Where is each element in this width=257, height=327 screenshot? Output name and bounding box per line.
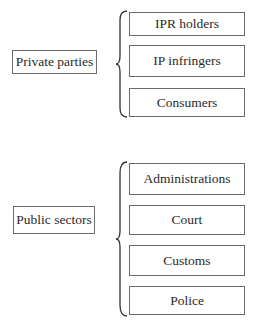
member-ipr-holders: IPR holders bbox=[129, 12, 245, 36]
group-label-private-parties: Private parties bbox=[12, 50, 97, 74]
member-consumers: Consumers bbox=[129, 88, 245, 117]
member-administrations: Administrations bbox=[129, 163, 245, 195]
group-label-public-sectors: Public sectors bbox=[13, 206, 95, 234]
brace-public-sectors bbox=[116, 161, 130, 317]
member-police: Police bbox=[129, 286, 245, 315]
member-customs: Customs bbox=[129, 245, 245, 276]
member-court: Court bbox=[129, 205, 245, 235]
brace-private-parties bbox=[116, 10, 130, 118]
member-ip-infringers: IP infringers bbox=[129, 45, 245, 77]
